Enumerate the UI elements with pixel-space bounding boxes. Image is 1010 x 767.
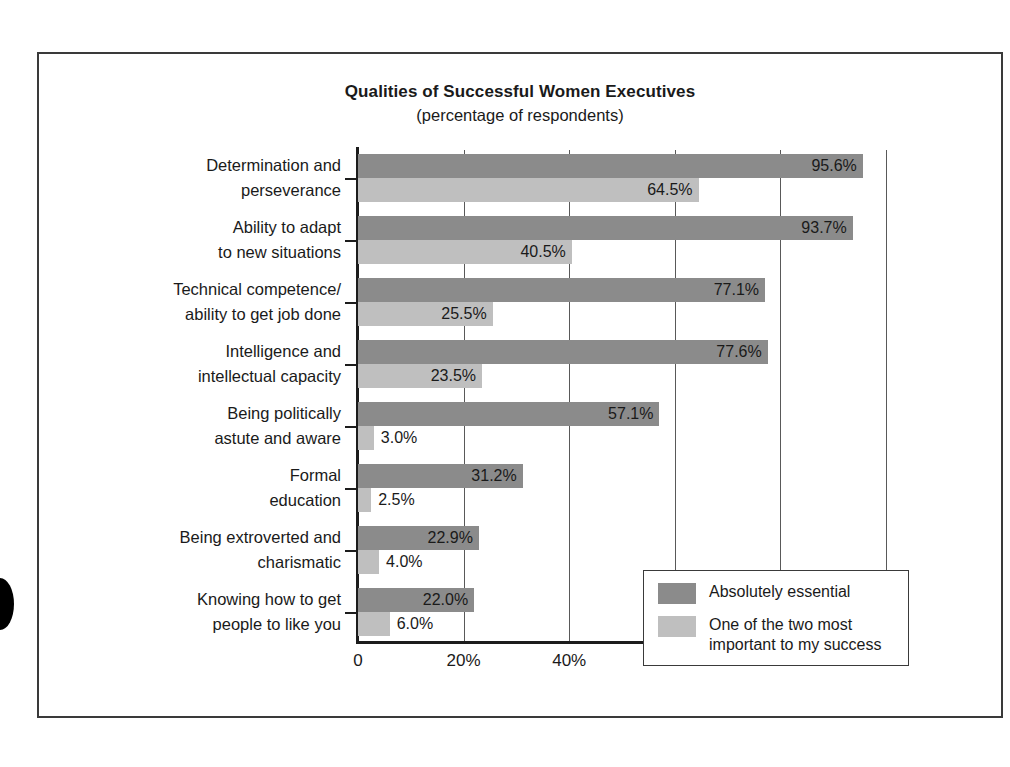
bar-absolutely-essential: 57.1%	[358, 402, 659, 426]
legend-label-line: One of the two most	[709, 615, 882, 635]
x-axis-tick-label: 0	[353, 651, 362, 671]
bar-group: Technical competence/ability to get job …	[358, 278, 886, 326]
y-axis-tick	[345, 488, 357, 490]
x-axis-tick-label: 20%	[447, 651, 481, 671]
y-axis-tick	[345, 612, 357, 614]
category-label-line: Intelligence and	[198, 339, 341, 364]
bar-value-label: 77.1%	[714, 278, 759, 302]
category-label-line: Ability to adapt	[218, 215, 341, 240]
bar-absolutely-essential: 31.2%	[358, 464, 523, 488]
bar-row: 2.5%	[358, 488, 886, 512]
bar-group: Being extroverted andcharismatic22.9%4.0…	[358, 526, 886, 574]
bar-absolutely-essential: 77.6%	[358, 340, 768, 364]
bar-value-label: 22.0%	[423, 588, 468, 612]
category-label-line: charismatic	[180, 550, 341, 575]
bar-row: 95.6%	[358, 154, 886, 178]
gridline	[886, 150, 887, 642]
x-axis-tick-label: 40%	[552, 651, 586, 671]
bar-value-label: 57.1%	[608, 402, 653, 426]
bar-row: 77.6%	[358, 340, 886, 364]
bar-value-label: 22.9%	[428, 526, 473, 550]
category-label-line: to new situations	[218, 240, 341, 265]
category-label-line: Being extroverted and	[180, 525, 341, 550]
category-label: Technical competence/ability to get job …	[173, 277, 341, 326]
y-axis-tick	[345, 364, 357, 366]
category-label: Being extroverted andcharismatic	[180, 525, 341, 574]
chart-subtitle: (percentage of respondents)	[39, 106, 1001, 125]
y-axis-tick	[345, 178, 357, 180]
legend-item-absolutely-essential: Absolutely essential	[658, 582, 908, 604]
category-label-line: Formal	[269, 463, 341, 488]
bar-value-label: 3.0%	[381, 426, 417, 450]
bar-top-two: 3.0%	[358, 426, 374, 450]
legend-label-essential: Absolutely essential	[709, 582, 850, 602]
legend-item-top-two: One of the two mostimportant to my succe…	[658, 615, 908, 655]
chart-title: Qualities of Successful Women Executives	[39, 82, 1001, 102]
legend-label-line: Absolutely essential	[709, 582, 850, 602]
bar-row: 77.1%	[358, 278, 886, 302]
bar-top-two: 64.5%	[358, 178, 699, 202]
category-label-line: ability to get job done	[173, 302, 341, 327]
bar-row: 57.1%	[358, 402, 886, 426]
y-axis-tick	[345, 240, 357, 242]
legend-label-line: important to my success	[709, 635, 882, 655]
bar-row: 31.2%	[358, 464, 886, 488]
scan-artifact	[0, 578, 14, 630]
chart-legend: Absolutely essential One of the two most…	[643, 570, 909, 666]
category-label: Intelligence andintellectual capacity	[198, 339, 341, 388]
bar-value-label: 23.5%	[431, 364, 476, 388]
bar-group: Determination andperseverance95.6%64.5%	[358, 154, 886, 202]
bar-row: 93.7%	[358, 216, 886, 240]
bar-top-two: 6.0%	[358, 612, 390, 636]
bar-top-two: 23.5%	[358, 364, 482, 388]
category-label-line: education	[269, 488, 341, 513]
bar-group: Intelligence andintellectual capacity77.…	[358, 340, 886, 388]
y-axis-tick	[345, 550, 357, 552]
legend-swatch-icon-top-two	[658, 616, 696, 637]
bar-row: 23.5%	[358, 364, 886, 388]
category-label-line: Knowing how to get	[197, 587, 341, 612]
bar-absolutely-essential: 95.6%	[358, 154, 863, 178]
category-label: Formaleducation	[269, 463, 341, 512]
y-axis-tick	[345, 426, 357, 428]
bar-value-label: 40.5%	[520, 240, 565, 264]
category-label-line: intellectual capacity	[198, 364, 341, 389]
category-label-line: Determination and	[206, 153, 341, 178]
y-axis-tick	[345, 302, 357, 304]
category-label-line: perseverance	[206, 178, 341, 203]
category-label: Being politicallyastute and aware	[214, 401, 341, 450]
category-label: Determination andperseverance	[206, 153, 341, 202]
bar-row: 3.0%	[358, 426, 886, 450]
category-label-line: astute and aware	[214, 426, 341, 451]
bar-group: Ability to adaptto new situations93.7%40…	[358, 216, 886, 264]
figure-frame: Qualities of Successful Women Executives…	[37, 52, 1003, 718]
bar-row: 22.9%	[358, 526, 886, 550]
category-label-line: people to like you	[197, 612, 341, 637]
bar-value-label: 6.0%	[397, 612, 433, 636]
bar-top-two: 40.5%	[358, 240, 572, 264]
bar-value-label: 95.6%	[811, 154, 856, 178]
bar-value-label: 64.5%	[647, 178, 692, 202]
bar-value-label: 93.7%	[801, 216, 846, 240]
bar-top-two: 4.0%	[358, 550, 379, 574]
bar-value-label: 31.2%	[471, 464, 516, 488]
bar-value-label: 2.5%	[378, 488, 414, 512]
bar-group: Formaleducation31.2%2.5%	[358, 464, 886, 512]
bar-row: 64.5%	[358, 178, 886, 202]
bar-row: 40.5%	[358, 240, 886, 264]
bar-absolutely-essential: 22.9%	[358, 526, 479, 550]
bar-top-two: 25.5%	[358, 302, 493, 326]
bar-value-label: 4.0%	[386, 550, 422, 574]
legend-swatch-icon-essential	[658, 583, 696, 604]
bar-value-label: 25.5%	[441, 302, 486, 326]
bar-absolutely-essential: 77.1%	[358, 278, 765, 302]
category-label-line: Technical competence/	[173, 277, 341, 302]
bar-value-label: 77.6%	[716, 340, 761, 364]
bar-row: 25.5%	[358, 302, 886, 326]
category-label: Ability to adaptto new situations	[218, 215, 341, 264]
category-label: Knowing how to getpeople to like you	[197, 587, 341, 636]
legend-label-top-two: One of the two mostimportant to my succe…	[709, 615, 882, 655]
plot-area: Determination andperseverance95.6%64.5%A…	[358, 150, 886, 642]
bar-absolutely-essential: 22.0%	[358, 588, 474, 612]
bar-group: Being politicallyastute and aware57.1%3.…	[358, 402, 886, 450]
